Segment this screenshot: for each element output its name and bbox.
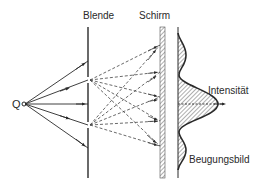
diffraction-diagram: Q Blende Schirm Intensität Beugungsbild (0, 0, 258, 186)
secondary-arrowheads (147, 47, 156, 145)
intensity-label: Intensität (208, 86, 249, 96)
screen-label: Schirm (139, 11, 170, 21)
secondary-rays (90, 45, 160, 146)
screen (160, 27, 165, 178)
incident-rays (25, 61, 88, 148)
pattern-label: Beugungsbild (189, 155, 250, 165)
source-label: Q (12, 99, 21, 110)
barrier-label: Blende (83, 11, 114, 21)
